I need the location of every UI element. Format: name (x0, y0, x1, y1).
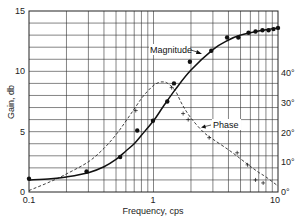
phase-cross-marker (170, 86, 174, 90)
magnitude-dot-marker (172, 81, 176, 85)
x-tick-10: 10 (270, 195, 280, 205)
phase-cross-marker (235, 151, 239, 155)
y2-tick-0: 0° (281, 187, 290, 197)
magnitude-dot-marker (84, 169, 88, 173)
magnitude-dot-marker (135, 128, 139, 132)
grid (29, 11, 278, 192)
y-tick-15: 15 (15, 6, 25, 16)
magnitude-dot-marker (165, 99, 169, 103)
magnitude-dot-marker (188, 59, 192, 63)
magnitude-dot-marker (266, 28, 270, 32)
phase-annotation: Phase (201, 119, 241, 130)
arrow-icon (201, 125, 206, 129)
magnitude-dot-marker (225, 35, 229, 39)
magnitude-dot-marker (276, 26, 280, 30)
magnitude-dot-marker (246, 31, 250, 35)
bode-plot: 0 5 10 15 0° 10° 20° 30° 40° 0.1 1 10 Fr… (0, 0, 300, 217)
phase-label: Phase (213, 120, 239, 130)
phase-cross-marker (254, 178, 258, 182)
y-tick-10: 10 (15, 66, 25, 76)
phase-cross-marker (186, 118, 190, 122)
y2-tick-20: 20° (281, 128, 295, 138)
magnitude-label: Magnitude (150, 45, 192, 55)
phase-cross-marker (261, 181, 265, 185)
magnitude-dot-marker (209, 49, 213, 53)
x-tick-0.1: 0.1 (23, 195, 36, 205)
magnitude-dot-marker (118, 155, 122, 159)
x-axis-label: Frequency, cps (123, 206, 184, 216)
y2-tick-40: 40° (281, 68, 295, 78)
magnitude-dot-marker (151, 119, 155, 123)
y-tick-5: 5 (20, 127, 25, 137)
magnitude-dot-marker (253, 29, 257, 33)
y2-tick-30: 30° (281, 98, 295, 108)
magnitude-dot-marker (260, 28, 264, 32)
magnitude-dot-marker (271, 27, 275, 31)
y-axis-label: Gain, db (6, 85, 16, 119)
phase-cross-marker (181, 112, 185, 116)
magnitude-annotation: Magnitude (149, 44, 202, 55)
magnitude-dot-marker (236, 35, 240, 39)
magnitude-dot-marker (27, 177, 31, 181)
arrow-icon (196, 50, 202, 54)
phase-cross-marker (207, 136, 211, 140)
x-tick-1: 1 (150, 195, 155, 205)
y2-tick-10: 10° (281, 157, 295, 167)
